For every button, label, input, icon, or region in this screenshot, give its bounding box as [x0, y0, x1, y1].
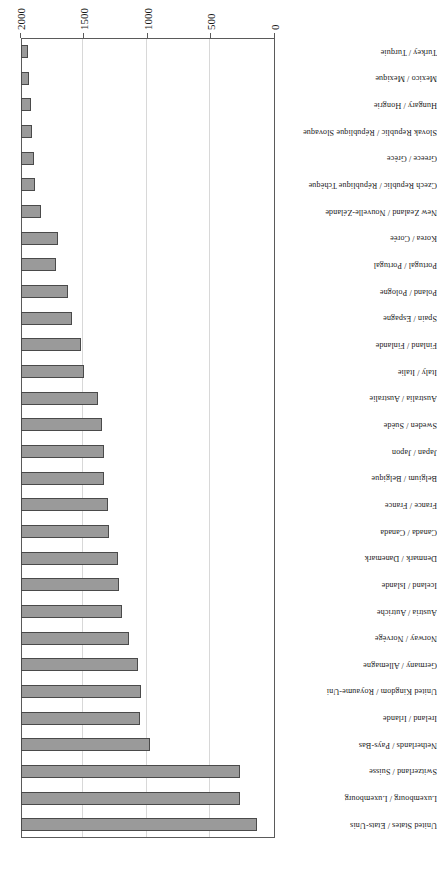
- bar: [21, 498, 108, 511]
- bar: [21, 765, 240, 778]
- category-label: Norway / Norvège: [375, 634, 437, 642]
- bar: [21, 472, 104, 485]
- category-label-row: France / France: [280, 491, 440, 518]
- bar: [21, 632, 129, 645]
- bar: [21, 658, 138, 671]
- category-axis-labels: United States / Etats-UnisLuxembourg / L…: [280, 38, 440, 838]
- bar-row: [21, 625, 275, 652]
- category-label-row: Czech Republic / République Tchèque: [280, 172, 440, 199]
- bar: [21, 738, 150, 751]
- bar: [21, 552, 118, 565]
- axis-tick-label: 500: [207, 14, 218, 31]
- category-label-row: Hungary / Hongrie: [280, 92, 440, 119]
- bar: [21, 205, 41, 218]
- category-label-row: Finland / Finlande: [280, 332, 440, 359]
- category-label: Poland / Pologne: [380, 287, 437, 295]
- bar-row: [21, 758, 275, 785]
- bar-row: [21, 571, 275, 598]
- category-label: Turkey / Turquie: [380, 48, 437, 56]
- bar-row: [21, 225, 275, 252]
- category-label-row: Luxembourg / Luxembourg: [280, 785, 440, 812]
- bar: [21, 605, 122, 618]
- bar-row: [21, 545, 275, 572]
- axis-tick: [20, 33, 21, 38]
- axis-tick-label: 2000: [16, 8, 27, 30]
- category-label: Ireland / Irlande: [383, 714, 437, 722]
- category-label-row: Slovak Republic / République Slovaque: [280, 118, 440, 145]
- category-label-row: Greece / Grèce: [280, 145, 440, 172]
- category-label: Germany / Allemagne: [363, 661, 437, 669]
- bar-row: [21, 598, 275, 625]
- bar-row: [21, 785, 275, 812]
- bar-row: [21, 705, 275, 732]
- category-label-row: United Kingdom / Royaume-Uni: [280, 678, 440, 705]
- bar: [21, 312, 72, 325]
- category-label: Iceland / Islande: [382, 581, 438, 589]
- category-label: United Kingdom / Royaume-Uni: [327, 687, 437, 695]
- category-label-row: Iceland / Islande: [280, 571, 440, 598]
- axis-tick: [274, 33, 275, 38]
- bar-row: [21, 92, 275, 119]
- bar: [21, 285, 68, 298]
- bar-row: [21, 811, 275, 838]
- bar-row: [21, 65, 275, 92]
- bar: [21, 98, 31, 111]
- category-label-row: Germany / Allemagne: [280, 651, 440, 678]
- bar: [21, 792, 240, 805]
- value-axis: 0500100015002000: [21, 0, 275, 38]
- axis-tick-label: 0: [270, 25, 281, 31]
- category-label: Hungary / Hongrie: [374, 101, 437, 109]
- bar: [21, 685, 141, 698]
- category-label: Switzerland / Suisse: [369, 767, 437, 775]
- category-label: Spain / Espagne: [383, 314, 437, 322]
- bar: [21, 152, 34, 165]
- bar-row: [21, 465, 275, 492]
- bar-row: [21, 491, 275, 518]
- bar-row: [21, 118, 275, 145]
- bar-row: [21, 145, 275, 172]
- category-label-row: Korea / Corée: [280, 225, 440, 252]
- category-label-row: Spain / Espagne: [280, 305, 440, 332]
- category-label-row: Portugal / Portugal: [280, 252, 440, 279]
- category-label-row: Turkey / Turquie: [280, 38, 440, 65]
- category-label: Slovak Republic / République Slovaque: [303, 128, 437, 136]
- bar: [21, 818, 257, 831]
- bar: [21, 125, 32, 138]
- category-label: Belgium / Belgique: [371, 474, 437, 482]
- category-label-row: Austria / Autriche: [280, 598, 440, 625]
- category-label-row: Mexico / Mexique: [280, 65, 440, 92]
- bar-row: [21, 678, 275, 705]
- bar-row: [21, 38, 275, 65]
- bar-row: [21, 332, 275, 359]
- category-label-row: Belgium / Belgique: [280, 465, 440, 492]
- category-label: Australia / Australie: [369, 394, 437, 402]
- bar-row: [21, 412, 275, 439]
- category-label: Japan / Japon: [392, 447, 437, 455]
- bar: [21, 258, 56, 271]
- category-label: Portugal / Portugal: [374, 261, 437, 269]
- category-label-row: United States / Etats-Unis: [280, 811, 440, 838]
- category-label-row: Netherlands / Pays-Bas: [280, 731, 440, 758]
- category-label: Greece / Grèce: [387, 154, 437, 162]
- bar: [21, 418, 102, 431]
- bar: [21, 338, 81, 351]
- bar-row: [21, 518, 275, 545]
- bar-row: [21, 278, 275, 305]
- axis-tick-label: 1500: [80, 8, 91, 30]
- bar-row: [21, 385, 275, 412]
- category-label-row: Poland / Pologne: [280, 278, 440, 305]
- bar: [21, 712, 140, 725]
- category-label: Denmark / Danemark: [365, 554, 437, 562]
- bar-row: [21, 438, 275, 465]
- bar-series: [21, 38, 275, 838]
- category-label-row: Japan / Japon: [280, 438, 440, 465]
- axis-tick: [84, 33, 85, 38]
- category-label: New Zealand / Nouvelle-Zélande: [325, 207, 437, 215]
- bar-row: [21, 252, 275, 279]
- category-label: Luxembourg / Luxembourg: [344, 794, 437, 802]
- bar: [21, 525, 109, 538]
- bar: [21, 578, 119, 591]
- category-label: United States / Etats-Unis: [350, 821, 437, 829]
- bar-row: [21, 358, 275, 385]
- rotated-figure: United States / Etats-UnisLuxembourg / L…: [0, 0, 440, 895]
